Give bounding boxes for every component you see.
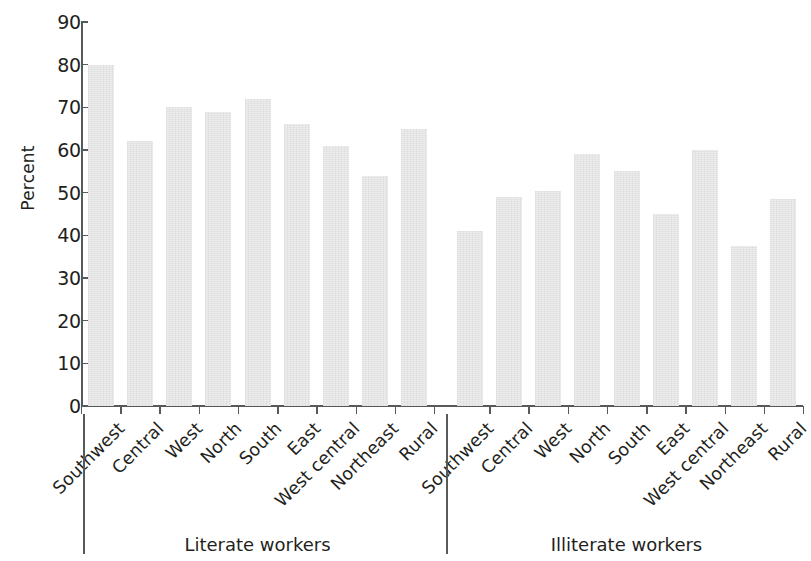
bar <box>362 176 388 406</box>
x-category-label: South <box>602 414 652 464</box>
bar <box>614 171 640 406</box>
bar <box>284 124 310 406</box>
bar <box>205 112 231 406</box>
x-category-label: Rural <box>763 414 809 460</box>
x-tick-mark <box>316 406 317 414</box>
bar <box>88 65 114 406</box>
bar <box>653 214 679 406</box>
group-separator <box>446 414 448 554</box>
bar <box>166 107 192 406</box>
x-tick-mark <box>81 406 82 414</box>
y-tick-label: 70 <box>37 96 81 118</box>
x-tick-mark <box>568 406 569 414</box>
x-category-label: Rural <box>394 414 440 460</box>
x-tick-mark <box>607 406 608 414</box>
y-axis-title: Percent <box>18 98 38 258</box>
x-tick-mark <box>120 406 121 414</box>
bar <box>127 141 153 406</box>
x-tick-mark <box>646 406 647 414</box>
bar <box>323 146 349 406</box>
y-tick-label: 40 <box>37 224 81 246</box>
bar <box>245 99 271 406</box>
x-tick-mark <box>489 406 490 414</box>
y-tick-label: 80 <box>37 54 81 76</box>
x-tick-mark <box>764 406 765 414</box>
x-tick-mark <box>199 406 200 414</box>
bar <box>457 231 483 406</box>
x-tick-mark <box>685 406 686 414</box>
x-tick-mark <box>356 406 357 414</box>
bar <box>731 246 757 406</box>
x-tick-mark <box>803 406 804 414</box>
x-tick-mark <box>395 406 396 414</box>
plot-area <box>81 22 803 406</box>
x-tick-mark <box>159 406 160 414</box>
y-tick-label: 10 <box>37 352 81 374</box>
x-tick-mark <box>434 406 435 414</box>
bar <box>770 199 796 406</box>
group-label: Illiterate workers <box>551 534 703 555</box>
x-tick-mark <box>277 406 278 414</box>
y-tick-label: 20 <box>37 310 81 332</box>
y-tick-label: 30 <box>37 267 81 289</box>
y-tick-label: 50 <box>37 182 81 204</box>
bar <box>535 191 561 406</box>
group-separator <box>83 414 85 554</box>
x-tick-mark <box>238 406 239 414</box>
group-label: Literate workers <box>184 534 330 555</box>
y-tick-label: 90 <box>37 11 81 33</box>
x-tick-mark <box>725 406 726 414</box>
y-tick-label: 0 <box>37 395 81 417</box>
y-tick-label: 60 <box>37 139 81 161</box>
bar <box>401 129 427 406</box>
bar <box>496 197 522 406</box>
bar <box>574 154 600 406</box>
x-category-label: South <box>233 414 283 464</box>
bar <box>692 150 718 406</box>
x-tick-mark <box>528 406 529 414</box>
